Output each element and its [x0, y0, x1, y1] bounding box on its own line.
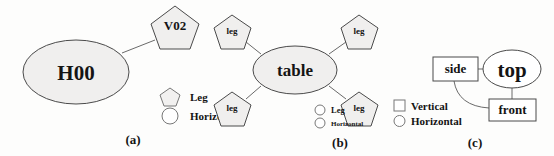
node-leg-bottom-left[interactable]: leg: [214, 92, 251, 126]
edge-side-front: [454, 81, 489, 108]
node-h00[interactable]: H00: [23, 40, 129, 104]
node-table-label: table: [277, 61, 313, 80]
edge-table-leg-bl: [246, 86, 261, 99]
node-front-label: front: [499, 102, 528, 117]
edge-table-leg-br: [329, 86, 346, 99]
legend-item-horizontal: Horizontal: [315, 118, 363, 128]
node-side[interactable]: side: [433, 57, 478, 81]
legend-panel-c: Vertical Horizontal: [394, 100, 462, 127]
panel-b-diagram: leg leg leg leg table: [200, 0, 390, 156]
edge-table-leg-tr: [329, 42, 346, 54]
node-top-label: top: [497, 58, 526, 82]
node-front[interactable]: front: [489, 99, 536, 121]
figure-container: H00 V02 Leg Horizonta (a): [0, 0, 554, 156]
edge-v02-h00: [122, 40, 155, 53]
panel-b: leg leg leg leg table: [200, 0, 390, 156]
legend-label-vertical: Vertical: [411, 100, 448, 112]
node-v02[interactable]: V02: [151, 6, 199, 49]
node-v02-label: V02: [164, 18, 186, 33]
node-leg-top-right[interactable]: leg: [341, 15, 378, 49]
legend-label-leg: Leg: [331, 105, 345, 115]
edge-table-leg-tl: [246, 42, 261, 54]
node-leg-top-left[interactable]: leg: [214, 15, 251, 49]
panel-a-caption: (a): [125, 132, 140, 147]
node-leg-label: leg: [227, 26, 238, 36]
node-leg-label: leg: [354, 26, 365, 36]
panel-c-caption: (c): [468, 135, 482, 150]
legend-label-horizontal: Horizontal: [331, 120, 363, 128]
pentagon-icon: [160, 88, 180, 106]
node-leg-label: leg: [354, 103, 365, 113]
legend-item-vertical: Vertical: [394, 100, 448, 112]
panel-c: side top front Vertical Horizon: [390, 0, 554, 156]
legend-item-leg: Leg: [315, 105, 345, 115]
node-top[interactable]: top: [483, 50, 541, 88]
legend-item-horizontal: Horizontal: [394, 115, 462, 127]
circle-icon: [315, 105, 325, 115]
node-h00-label: H00: [57, 61, 94, 85]
circle-icon: [162, 108, 178, 124]
panel-c-diagram: side top front Vertical Horizon: [390, 0, 554, 156]
panel-a-diagram: H00 V02 Leg Horizonta (a): [0, 0, 200, 156]
panel-b-caption: (b): [332, 135, 348, 150]
node-table[interactable]: table: [253, 46, 337, 94]
legend-label-horizontal: Horizontal: [411, 115, 462, 127]
circle-icon: [394, 116, 405, 127]
circle-icon: [315, 118, 325, 128]
panel-a: H00 V02 Leg Horizonta (a): [0, 0, 200, 156]
square-icon: [394, 100, 405, 111]
node-side-label: side: [445, 61, 467, 76]
node-leg-label: leg: [227, 103, 238, 113]
